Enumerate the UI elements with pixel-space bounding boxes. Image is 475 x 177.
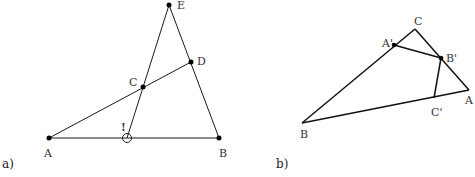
label-A: A: [464, 94, 474, 107]
label-B: B: [219, 147, 227, 160]
point-D: [189, 60, 194, 65]
caption-a: a): [2, 157, 14, 171]
label-A: A: [43, 147, 53, 160]
point-E: [167, 3, 172, 8]
point-A: [47, 136, 52, 141]
label-E: E: [177, 0, 185, 12]
segment-B'C': [434, 58, 441, 98]
segment-AD: [49, 62, 191, 138]
diagram-canvas: ! A B C D E a) A B C A' B' C' b): [0, 0, 475, 177]
label-B: B: [300, 128, 308, 141]
label-C-prime: C': [431, 106, 442, 119]
figure-b: A B C A' B' C' b): [276, 15, 474, 171]
segment-AB: [302, 90, 469, 123]
caption-b: b): [276, 157, 288, 171]
point-C: [141, 85, 146, 90]
label-C: C: [129, 76, 137, 89]
point-B-prime: [439, 56, 444, 61]
segment-BE: [169, 5, 219, 138]
point-B: [217, 136, 222, 141]
label-C: C: [414, 15, 422, 28]
label-A-prime: A': [381, 37, 393, 50]
label-D: D: [197, 55, 206, 68]
exclamation-mark: !: [121, 121, 126, 134]
label-B-prime: B': [446, 52, 457, 65]
segment-BC: [302, 29, 415, 123]
figure-a: ! A B C D E a): [2, 0, 227, 171]
segment-E-to-base: [127, 5, 169, 138]
